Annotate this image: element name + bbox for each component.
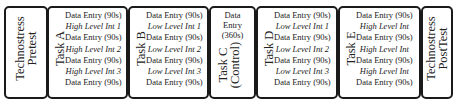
- task-item: High Level Int 1: [65, 21, 122, 32]
- stage-task-e: Task E Data Entry (90s) High Level Int D…: [338, 6, 421, 99]
- stage-pretest: Technostress Pretest: [4, 6, 48, 99]
- task-item: Data Entry (90s): [146, 32, 203, 43]
- task-item: Low Level Int 1: [274, 21, 331, 32]
- task-item: Data Entry (90s): [356, 55, 413, 66]
- stage-posttest: Technostress PostTest: [421, 6, 453, 99]
- stage-task-c: Data Entry (360s) Task C (Control): [209, 6, 256, 99]
- task-item: High Level Int 3: [65, 66, 122, 77]
- task-item: Data Entry (90s): [356, 10, 413, 21]
- task-items: Data Entry (90s) High Level Int 1 Data E…: [65, 10, 122, 88]
- task-item: Data Entry (90s): [146, 55, 203, 66]
- stage-task-b: Task B Data Entry (90s) Low Level Int 1 …: [128, 6, 209, 99]
- task-items: Data Entry (90s) Low Level Int 1 Data En…: [274, 10, 331, 88]
- task-item: Low Level Int 3: [146, 66, 203, 77]
- stage-task-a: Task A Data Entry (90s) High Level Int 1…: [47, 6, 128, 99]
- text-line: Entry: [211, 20, 254, 30]
- task-item: Data Entry (90s): [65, 55, 122, 66]
- text-line: Data: [211, 10, 254, 20]
- task-item: Low Level Int 2: [274, 44, 331, 55]
- task-items: Data Entry (90s) Low Level Int 1 Data En…: [146, 10, 203, 88]
- task-item: Data Entry (90s): [146, 10, 203, 21]
- task-item: Data Entry (90s): [65, 32, 122, 43]
- label-line: Pretest: [26, 2, 38, 95]
- task-item: High Level Int 2: [65, 44, 122, 55]
- task-item: Data Entry (90s): [356, 32, 413, 43]
- task-item: Data Entry (90s): [146, 77, 203, 88]
- task-item: Low Level Int 2: [146, 44, 203, 55]
- stage-task-d: Task D Data Entry (90s) Low Level Int 1 …: [256, 6, 338, 99]
- task-item: High Level Int: [356, 66, 413, 77]
- task-items: Data Entry (90s) High Level Int Data Ent…: [356, 10, 413, 88]
- task-item: Data Entry (90s): [274, 55, 331, 66]
- task-item: Low Level Int 1: [146, 21, 203, 32]
- task-item: Data Entry (90s): [356, 77, 413, 88]
- task-item: High Level Int: [356, 44, 413, 55]
- task-item: High Level Int: [356, 21, 413, 32]
- label-line: (Control): [229, 35, 241, 95]
- task-item: Data Entry (90s): [65, 77, 122, 88]
- task-item: Low Level Int 3: [274, 66, 331, 77]
- task-item: Data Entry (90s): [274, 10, 331, 21]
- label-line: PostTest: [437, 2, 449, 95]
- task-item: Data Entry (90s): [65, 10, 122, 21]
- task-item: Data Entry (90s): [274, 32, 331, 43]
- task-item: Data Entry (90s): [274, 77, 331, 88]
